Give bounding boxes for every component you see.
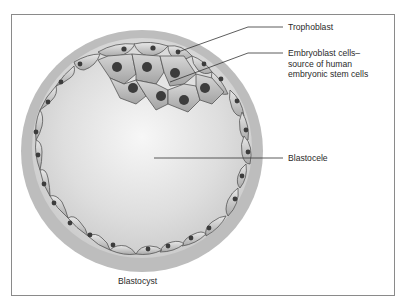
label-embryoblast-line3: embryonic stem cells [288, 69, 368, 80]
label-embryoblast-line2: source of human [288, 59, 368, 70]
label-embryoblast: Embryoblast cells– source of human embry… [288, 48, 368, 80]
label-blastocele: Blastocele [288, 153, 328, 164]
label-embryoblast-line1: Embryoblast cells– [288, 48, 368, 59]
label-trophoblast: Trophoblast [288, 22, 333, 33]
figure-caption: Blastocyst [118, 276, 157, 287]
blastocyst-diagram [0, 0, 410, 308]
